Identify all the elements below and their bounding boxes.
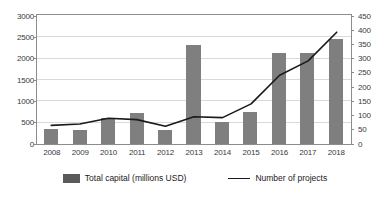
y-axis-right-tick-label: 100 xyxy=(358,111,388,120)
y-axis-right-tick-label: 450 xyxy=(358,11,388,20)
y-axis-left-tick-label: 0 xyxy=(2,139,34,148)
bar-swatch-icon xyxy=(63,174,80,183)
line-series-layer xyxy=(37,15,351,144)
legend-label-number-of-projects: Number of projects xyxy=(255,173,327,183)
x-axis-label-2008: 2008 xyxy=(43,148,60,157)
y-axis-right-tick-label: 400 xyxy=(358,25,388,34)
chart-container: 050010001500200025003000 050100150200250… xyxy=(0,0,390,199)
legend-label-total-capital: Total capital (millions USD) xyxy=(85,173,187,183)
x-axis-label-2013: 2013 xyxy=(186,148,203,157)
y-axis-left-tick-label: 2000 xyxy=(2,54,34,63)
line-swatch-icon xyxy=(228,178,250,179)
y-axis-right-tick-label: 350 xyxy=(358,39,388,48)
x-axis-label-2009: 2009 xyxy=(72,148,89,157)
x-axis-label-2010: 2010 xyxy=(100,148,117,157)
x-axis-label-2017: 2017 xyxy=(299,148,316,157)
y-axis-right-tick-label: 150 xyxy=(358,96,388,105)
x-axis-label-2014: 2014 xyxy=(214,148,231,157)
y-axis-right-tick-label: 50 xyxy=(358,125,388,134)
y-axis-right-tick-label: 0 xyxy=(358,139,388,148)
y-axis-left-tick-label: 500 xyxy=(2,118,34,127)
x-axis-label-2018: 2018 xyxy=(328,148,345,157)
y-axis-right-tick-label: 200 xyxy=(358,82,388,91)
x-axis-label-2011: 2011 xyxy=(129,148,145,157)
x-axis-label-2016: 2016 xyxy=(271,148,288,157)
line-series-path xyxy=(51,32,336,126)
x-axis-label-2012: 2012 xyxy=(157,148,174,157)
legend-item-total-capital[interactable]: Total capital (millions USD) xyxy=(63,173,187,183)
y-axis-left-tick-label: 1500 xyxy=(2,75,34,84)
y-axis-left-tick-label: 1000 xyxy=(2,96,34,105)
legend-item-number-of-projects[interactable]: Number of projects xyxy=(228,173,327,183)
y-axis-right-tick-label: 300 xyxy=(358,54,388,63)
y-axis-right-tick-label: 250 xyxy=(358,68,388,77)
y-axis-left-tick-label: 3000 xyxy=(2,11,34,20)
x-axis-label-2015: 2015 xyxy=(242,148,259,157)
y-axis-left-tick-label: 2500 xyxy=(2,32,34,41)
plot-area xyxy=(36,14,352,145)
chart-legend: Total capital (millions USD) Number of p… xyxy=(0,173,390,183)
